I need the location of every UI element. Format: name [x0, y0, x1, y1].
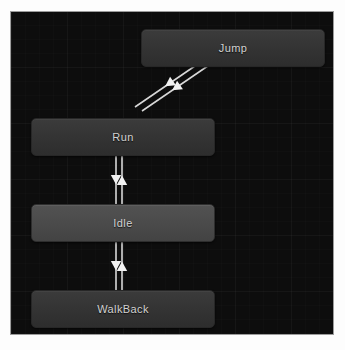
state-node-jump[interactable]: Jump: [141, 29, 325, 67]
state-node-label: Run: [112, 131, 133, 143]
animator-graph-canvas[interactable]: Jump Run Idle WalkBack: [11, 12, 333, 334]
state-node-run[interactable]: Run: [31, 118, 215, 156]
state-node-label: WalkBack: [97, 303, 149, 315]
state-node-walkback[interactable]: WalkBack: [31, 290, 215, 328]
state-node-label: Idle: [113, 217, 132, 229]
state-node-label: Jump: [219, 42, 248, 54]
animator-window: Jump Run Idle WalkBack: [0, 0, 345, 350]
state-node-idle[interactable]: Idle: [31, 204, 215, 242]
transition-idle-walkback-pair[interactable]: [111, 242, 127, 291]
transition-run-idle-pair[interactable]: [111, 156, 127, 205]
